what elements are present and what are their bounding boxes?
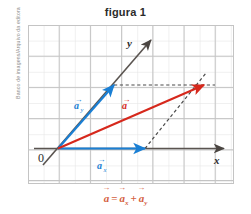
equation-equals: =	[109, 192, 119, 204]
origin-label: 0	[38, 151, 44, 165]
vector-diagram-svg: 0 x y a → y a → a → x	[28, 25, 234, 184]
x-axis-label: x	[213, 154, 220, 166]
image-credit-label: Banco de imagens/Arquivo da editora	[15, 0, 21, 123]
equation-term2: a	[139, 192, 145, 204]
vector-sum-equation: a=ax+ay	[0, 192, 251, 207]
vector-diagram-plot: 0 x y a → y a → a → x	[28, 25, 234, 184]
equation-term2-sub: y	[144, 199, 147, 207]
svg-text:y: y	[80, 106, 84, 113]
figure-title: figura 1	[0, 6, 251, 18]
figure-container: figura 1 Banco de imagens/Arquivo da edi…	[0, 0, 251, 214]
svg-text:→: →	[75, 95, 83, 104]
svg-text:x: x	[103, 166, 107, 173]
equation-lhs: a	[104, 192, 110, 204]
equation-term1: a	[119, 192, 125, 204]
equation-plus: +	[128, 192, 138, 204]
svg-text:→: →	[98, 155, 106, 164]
svg-text:→: →	[123, 95, 131, 104]
y-axis-label: y	[125, 37, 132, 49]
